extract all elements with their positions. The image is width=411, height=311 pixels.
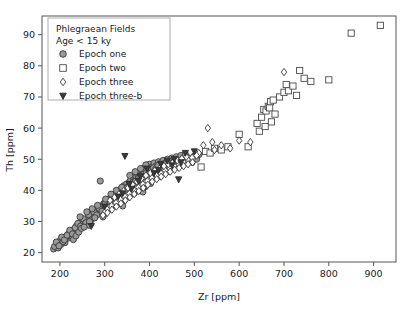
legend-label-1: Epoch one bbox=[79, 49, 127, 59]
legend-marker-circle-icon bbox=[60, 51, 67, 58]
x-tick-label: 200 bbox=[51, 268, 69, 279]
data-point bbox=[326, 77, 332, 83]
data-point bbox=[97, 178, 103, 184]
scatter-chart: 2003004005006007008009002030405060708090… bbox=[0, 0, 411, 311]
x-tick-label: 400 bbox=[140, 268, 158, 279]
x-tick-label: 500 bbox=[185, 268, 203, 279]
data-point bbox=[377, 22, 383, 28]
y-tick-label: 90 bbox=[23, 29, 35, 40]
data-point bbox=[94, 202, 100, 208]
y-tick-label: 40 bbox=[23, 185, 35, 196]
data-point bbox=[262, 123, 268, 129]
y-axis-title: Th [ppm] bbox=[4, 128, 15, 173]
data-point bbox=[258, 114, 264, 120]
data-point bbox=[290, 83, 296, 89]
figure-container: 2003004005006007008009002030405060708090… bbox=[0, 0, 411, 311]
data-point bbox=[297, 67, 303, 73]
data-point bbox=[137, 165, 143, 171]
y-tick-label: 80 bbox=[23, 60, 35, 71]
data-point bbox=[56, 243, 62, 249]
y-tick-label: 30 bbox=[23, 216, 35, 227]
data-point bbox=[348, 30, 354, 36]
x-tick-label: 700 bbox=[275, 268, 293, 279]
x-tick-label: 800 bbox=[320, 268, 338, 279]
data-point bbox=[293, 92, 299, 98]
y-tick-label: 20 bbox=[23, 247, 35, 258]
data-point bbox=[254, 120, 260, 126]
data-point bbox=[267, 105, 273, 111]
x-tick-label: 600 bbox=[230, 268, 248, 279]
data-point bbox=[256, 128, 262, 134]
x-tick-label: 300 bbox=[96, 268, 114, 279]
legend-title-line1: Phlegraean Fields bbox=[56, 24, 135, 34]
legend-title-line2: Age < 15 ky bbox=[56, 36, 112, 46]
data-point bbox=[283, 81, 289, 87]
data-point bbox=[301, 75, 307, 81]
legend-marker-square-icon bbox=[60, 65, 67, 72]
data-point bbox=[268, 119, 274, 125]
data-point bbox=[272, 111, 278, 117]
legend-label-3: Epoch three bbox=[79, 77, 134, 87]
y-tick-label: 70 bbox=[23, 91, 35, 102]
data-point bbox=[270, 97, 276, 103]
x-axis-title: Zr [ppm] bbox=[198, 291, 240, 302]
y-tick-label: 50 bbox=[23, 154, 35, 165]
data-point bbox=[127, 172, 133, 178]
legend-label-4: Epoch three-b bbox=[79, 91, 142, 101]
y-tick-label: 60 bbox=[23, 123, 35, 134]
x-tick-label: 900 bbox=[365, 268, 383, 279]
data-point bbox=[92, 215, 98, 221]
data-point bbox=[81, 224, 87, 230]
data-point bbox=[308, 78, 314, 84]
data-point bbox=[198, 164, 204, 170]
legend: Phlegraean FieldsAge < 15 kyEpoch oneEpo… bbox=[48, 18, 170, 101]
legend-label-2: Epoch two bbox=[79, 63, 126, 73]
data-point bbox=[77, 214, 83, 220]
